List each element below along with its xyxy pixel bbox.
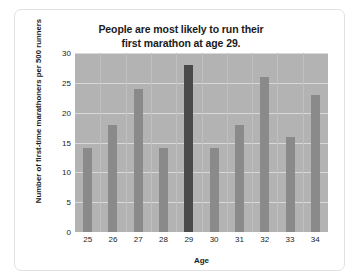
x-axis-tick-label: 29 — [176, 235, 201, 244]
x-axis-tick-label: 33 — [277, 235, 302, 244]
gridline — [75, 232, 328, 233]
x-axis-tick-label: 32 — [252, 235, 277, 244]
y-axis-tick-labels: 302520151050 — [53, 53, 71, 232]
bar — [286, 137, 295, 232]
bar — [311, 95, 320, 232]
bar-slot — [100, 53, 125, 232]
bar-slot — [303, 53, 328, 232]
y-axis-tick-label: 25 — [53, 78, 71, 87]
x-axis-tick-label: 31 — [227, 235, 252, 244]
x-axis-title: Age — [75, 256, 328, 265]
y-axis-tick-label: 15 — [53, 138, 71, 147]
x-axis-tick-labels: 25262728293031323334 — [75, 235, 328, 244]
x-axis-tick-label: 27 — [126, 235, 151, 244]
bar — [235, 125, 244, 232]
x-axis-tick-label: 34 — [303, 235, 328, 244]
chart-figure-frame: People are most likely to run their firs… — [14, 9, 345, 271]
bar — [260, 77, 269, 232]
bar-slot — [252, 53, 277, 232]
x-axis-tick-label: 26 — [100, 235, 125, 244]
y-axis-tick-label: 30 — [53, 49, 71, 58]
bar — [108, 125, 117, 232]
bar-slot — [227, 53, 252, 232]
y-axis-tick-label: 20 — [53, 108, 71, 117]
bar-slot — [151, 53, 176, 232]
bar-slot — [126, 53, 151, 232]
y-axis-tick-label: 5 — [53, 198, 71, 207]
bar — [134, 89, 143, 232]
x-axis-tick-label: 25 — [75, 235, 100, 244]
bar-highlighted — [184, 65, 193, 232]
bar-series — [75, 53, 328, 232]
x-axis-tick-label: 28 — [151, 235, 176, 244]
y-axis-title-line-2: per 500 runners — [34, 19, 44, 78]
y-axis-tick-label: 0 — [53, 228, 71, 237]
y-axis-title-line-1: Number of first-time marathoners — [34, 79, 44, 203]
plot-area — [75, 53, 328, 232]
bar — [83, 148, 92, 232]
chart-title-line-1: People are most likely to run their — [45, 23, 317, 37]
bar-slot — [277, 53, 302, 232]
bar-slot — [201, 53, 226, 232]
bar-slot — [176, 53, 201, 232]
x-axis-tick-label: 30 — [201, 235, 226, 244]
bar — [210, 148, 219, 232]
chart-title: People are most likely to run their firs… — [45, 23, 317, 50]
bar — [159, 148, 168, 232]
y-axis-title: Number of first-time marathoners per 500… — [26, 21, 52, 201]
bar-slot — [75, 53, 100, 232]
y-axis-tick-label: 10 — [53, 168, 71, 177]
chart-title-line-2: first marathon at age 29. — [45, 37, 317, 51]
